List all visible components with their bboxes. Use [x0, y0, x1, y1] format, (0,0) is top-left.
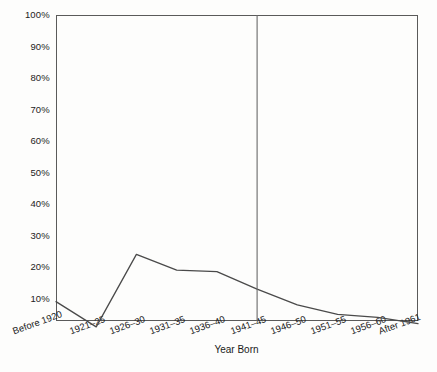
x-axis-tick-label: 1931–35 [148, 313, 187, 336]
x-axis-title-text: Year Born [214, 344, 258, 355]
x-axis-tick-label: 1921–25 [68, 313, 107, 336]
x-axis-tick-label: 1951–55 [309, 313, 348, 336]
x-axis-tick-label: Before 1920 [11, 308, 63, 336]
x-axis-tick-labels: Before 19201921–251926–301931–351936–401… [0, 0, 437, 372]
x-axis-tick-label: 1926–30 [108, 313, 147, 336]
x-axis-title: Year Born [0, 344, 437, 355]
x-axis-tick-label: 1941–45 [229, 313, 268, 336]
chart-screenshot: 100%90%80%70%60%50%40%30%20%10% Before 1… [0, 0, 437, 372]
x-axis-tick-label: 1946–50 [269, 313, 308, 336]
x-axis-tick-label: 1936–40 [188, 313, 227, 336]
